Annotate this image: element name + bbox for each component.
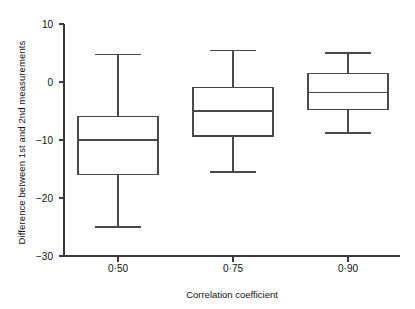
box-iqr xyxy=(308,73,388,110)
x-tick-label: 0·50 xyxy=(108,263,128,274)
x-tick-label: 0·90 xyxy=(338,263,358,274)
boxplot-1 xyxy=(78,54,158,227)
y-axis-title: Difference between 1st and 2nd measureme… xyxy=(16,18,27,268)
box-series xyxy=(78,50,388,227)
x-tick-label: 0·75 xyxy=(223,263,243,274)
x-axis-title: Correlation coefficient xyxy=(64,289,400,300)
y-tick-label: −30 xyxy=(36,251,53,262)
y-tick-label: 10 xyxy=(42,19,53,30)
axes xyxy=(59,24,400,262)
boxplot-figure: 100−10−20−30 0·500·750·90 Difference bet… xyxy=(0,0,415,309)
box-iqr xyxy=(78,116,158,175)
y-tick-label: −10 xyxy=(36,135,53,146)
y-axis-tick-labels: 100−10−20−30 xyxy=(0,0,53,309)
y-tick-label: −20 xyxy=(36,193,53,204)
boxplot-2 xyxy=(193,50,273,172)
y-tick-label: 0 xyxy=(47,77,53,88)
boxplot-3 xyxy=(308,53,388,133)
